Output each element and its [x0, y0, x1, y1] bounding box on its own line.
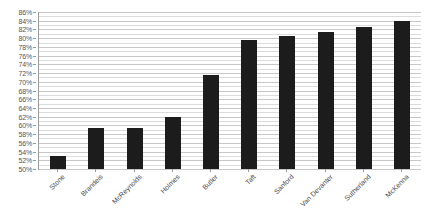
- bar: [165, 117, 181, 169]
- y-tick-label: 54%: [19, 148, 32, 155]
- y-tick-mark: [33, 73, 36, 74]
- y-tick-mark: [33, 134, 36, 135]
- x-tick-label: McKenna: [384, 173, 410, 199]
- bar: [50, 156, 66, 169]
- y-tick-mark: [33, 160, 36, 161]
- bar: [127, 128, 143, 169]
- y-tick-mark: [33, 108, 36, 109]
- y-tick-label: 64%: [19, 104, 32, 111]
- y-tick-mark: [33, 47, 36, 48]
- y-tick-label: 86%: [19, 9, 32, 16]
- x-tick-label: Van Devanter: [299, 173, 334, 208]
- y-tick-label: 62%: [19, 113, 32, 120]
- y-tick-label: 82%: [19, 26, 32, 33]
- y-tick-mark: [33, 12, 36, 13]
- y-tick-mark: [33, 21, 36, 22]
- y-tick-label: 50%: [19, 166, 32, 173]
- y-tick-mark: [33, 64, 36, 65]
- x-tick-mark: [363, 169, 364, 172]
- x-tick-label: Taft: [244, 173, 257, 186]
- y-tick-label: 66%: [19, 96, 32, 103]
- y-tick-label: 74%: [19, 61, 32, 68]
- y-tick-label: 56%: [19, 139, 32, 146]
- x-tick-label: Brandeis: [79, 173, 103, 197]
- bar: [318, 32, 334, 169]
- bar: [203, 75, 219, 169]
- y-tick-label: 84%: [19, 17, 32, 24]
- bar-chart: 50%52%54%56%58%60%62%64%66%68%70%72%74%7…: [0, 0, 438, 223]
- x-tick-label: Holmes: [159, 173, 181, 195]
- y-tick-mark: [33, 56, 36, 57]
- y-tick-mark: [33, 125, 36, 126]
- x-tick-label: Sanford: [273, 173, 295, 195]
- y-tick-label: 76%: [19, 52, 32, 59]
- y-tick-mark: [33, 91, 36, 92]
- bar: [241, 40, 257, 169]
- y-tick-mark: [33, 117, 36, 118]
- bars-layer: [39, 12, 421, 169]
- x-tick-mark: [172, 169, 173, 172]
- y-tick-mark: [33, 29, 36, 30]
- y-axis: 50%52%54%56%58%60%62%64%66%68%70%72%74%7…: [0, 12, 36, 169]
- x-axis: StoneBrandeisMcReynoldsHolmesButlerTaftS…: [38, 173, 420, 223]
- y-tick-mark: [33, 38, 36, 39]
- y-tick-mark: [33, 152, 36, 153]
- y-tick-label: 68%: [19, 87, 32, 94]
- y-tick-mark: [33, 99, 36, 100]
- x-tick-label: Stone: [48, 173, 66, 191]
- x-tick-mark: [248, 169, 249, 172]
- y-tick-label: 78%: [19, 43, 32, 50]
- y-tick-mark: [33, 169, 36, 170]
- x-tick-mark: [134, 169, 135, 172]
- bar: [279, 36, 295, 169]
- y-tick-mark: [33, 143, 36, 144]
- x-tick-mark: [95, 169, 96, 172]
- x-tick-mark: [57, 169, 58, 172]
- bar: [88, 128, 104, 169]
- x-tick-mark: [286, 169, 287, 172]
- y-tick-label: 80%: [19, 35, 32, 42]
- y-tick-label: 70%: [19, 78, 32, 85]
- x-tick-label: Butler: [201, 173, 219, 191]
- x-tick-label: Sutherland: [343, 173, 372, 202]
- bar: [394, 21, 410, 169]
- y-tick-label: 72%: [19, 70, 32, 77]
- y-tick-label: 60%: [19, 122, 32, 129]
- x-tick-mark: [401, 169, 402, 172]
- y-tick-label: 52%: [19, 157, 32, 164]
- x-tick-label: McReynolds: [111, 173, 143, 205]
- y-tick-mark: [33, 82, 36, 83]
- x-tick-mark: [210, 169, 211, 172]
- y-tick-label: 58%: [19, 131, 32, 138]
- plot-area: [38, 12, 421, 170]
- x-tick-mark: [325, 169, 326, 172]
- bar: [356, 27, 372, 169]
